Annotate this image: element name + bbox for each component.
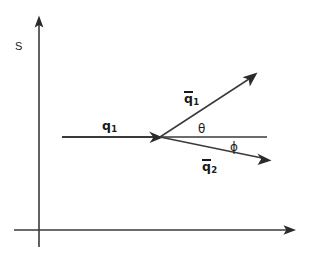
outgoing-vector-qbar1-symbol: q [184, 92, 193, 106]
angle-phi-label: ϕ [230, 141, 238, 153]
outgoing-vector-qbar2-symbol: q [202, 160, 211, 174]
horizontal-axis [14, 225, 296, 235]
incoming-vector-q1-label: q1 [102, 120, 117, 134]
incoming-vector-q1-subscript: 1 [111, 124, 117, 134]
outgoing-vector-qbar1-label: q1 [184, 92, 199, 107]
outgoing-vector-qbar1-subscript: 1 [193, 97, 199, 107]
angle-theta-label: θ [198, 123, 205, 135]
vertical-axis-label: S [15, 41, 22, 52]
outgoing-vector-qbar2-label: q2 [202, 160, 217, 175]
incoming-vector-q1-symbol: q [102, 118, 111, 133]
outgoing-vector-qbar2-arrowhead-icon [257, 153, 271, 165]
outgoing-vector-qbar2-subscript: 2 [211, 165, 217, 175]
vector-diagram-figure: S q1 q1 q2 θ ϕ [0, 0, 310, 269]
outgoing-vector-qbar2-line [160, 137, 262, 158]
diagram-canvas [0, 0, 310, 269]
vertical-axis [35, 16, 44, 248]
outgoing-vector-qbar1-arrowhead-icon [243, 73, 258, 87]
outgoing-vector-qbar1 [160, 73, 258, 138]
